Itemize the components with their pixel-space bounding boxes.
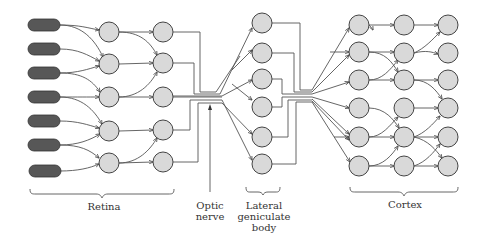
cortex-neuron [438, 156, 458, 176]
photoreceptor [29, 165, 61, 177]
lgn-neuron [252, 97, 272, 117]
cortex-neuron [349, 156, 369, 176]
optic-nerve-label-line1: Optic [188, 200, 232, 211]
cortex-neuron [394, 15, 414, 35]
cortex-neuron [394, 43, 414, 63]
cortex-layer-3 [438, 15, 458, 176]
cortex-neuron [394, 156, 414, 176]
retina-neuron [153, 53, 173, 73]
cortex-neuron [438, 98, 458, 118]
photoreceptor [28, 115, 60, 127]
lgn-neuron [252, 127, 272, 147]
optic-nerve-fibers [173, 28, 252, 162]
retina-brace [30, 189, 174, 198]
retina-neuron [99, 22, 119, 42]
photoreceptor [28, 67, 60, 79]
photoreceptor [28, 139, 60, 151]
lgn-neuron [252, 69, 272, 89]
cortex-neuron [349, 15, 369, 35]
retina-neuron [153, 87, 173, 107]
cortex-neuron [349, 42, 369, 62]
lgn-label-line3: body [234, 222, 294, 233]
lateral-geniculate-body [252, 13, 272, 174]
cortex-layer-1 [349, 15, 369, 176]
retina-layer-1 [99, 22, 119, 173]
retina-layer-connections [119, 32, 157, 163]
cortex-neuron [394, 127, 414, 147]
cortex-neuron [349, 98, 369, 118]
cortex-neuron [349, 127, 369, 147]
cortex-brace [350, 187, 458, 196]
cortex-neuron [349, 70, 369, 90]
photoreceptor [28, 91, 60, 103]
optic-radiation-fibers [272, 23, 350, 164]
cortex-neuron [394, 98, 414, 118]
retina-neuron [153, 120, 173, 140]
lgn-brace [246, 187, 280, 195]
retina-neuron [153, 22, 173, 42]
lgn-neuron [252, 43, 272, 63]
retina-neuron [99, 54, 119, 74]
cortex-neuron [438, 127, 458, 147]
photoreceptor [28, 43, 60, 55]
retina-label: Retina [76, 201, 132, 212]
lgn-label: Lateral geniculate body [234, 200, 294, 233]
lgn-neuron [252, 154, 272, 174]
photoreceptors [28, 19, 61, 177]
lgn-neuron [252, 13, 272, 33]
retina-neuron [99, 153, 119, 173]
optic-nerve-label: Optic nerve [188, 200, 232, 222]
optic-nerve-arrowhead [208, 104, 212, 110]
optic-nerve-label-line2: nerve [188, 211, 232, 222]
retina-layer-2 [153, 22, 173, 172]
cortex-layer-2 [394, 15, 414, 176]
cortex-neuron [438, 15, 458, 35]
retina-neuron [153, 152, 173, 172]
cortex-neuron [438, 43, 458, 63]
receptor-connections [60, 25, 103, 171]
photoreceptor [28, 19, 60, 31]
cortex-neuron [438, 70, 458, 90]
lgn-label-line2: geniculate [234, 211, 294, 222]
lgn-label-line1: Lateral [234, 200, 294, 211]
cortex-label: Cortex [380, 199, 430, 210]
cortex-neuron [394, 70, 414, 90]
retina-neuron [99, 121, 119, 141]
retina-neuron [99, 87, 119, 107]
